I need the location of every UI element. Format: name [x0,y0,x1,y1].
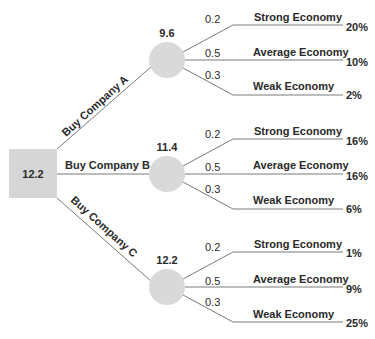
prob-a-average: 0.5 [205,47,220,59]
line-option-c [57,198,152,282]
outcome-a-weak: Weak Economy [253,80,335,92]
outcome-a-strong: Strong Economy [254,11,343,23]
option-a-label: Buy Company A [59,73,130,139]
payoff-a-average: 10% [346,56,368,68]
outcome-b-weak: Weak Economy [253,194,335,206]
payoff-c-average: 9% [346,283,362,295]
chance-node-c-value: 12.2 [156,254,177,266]
chance-node-c [149,269,185,305]
chance-node-a-value: 9.6 [159,27,174,39]
line-option-a [57,66,152,149]
option-c-label: Buy Company C [69,194,140,260]
chance-node-b-value: 11.4 [157,141,179,153]
payoff-c-weak: 25% [346,317,368,329]
option-b-label: Buy Company B [65,159,150,171]
prob-a-strong: 0.2 [205,13,220,25]
prob-b-weak: 0.3 [205,183,220,195]
decision-node-value: 12.2 [22,168,43,180]
outcome-c-strong: Strong Economy [254,238,343,250]
outcome-c-weak: Weak Economy [253,308,335,320]
chance-node-b [149,156,185,192]
payoff-c-strong: 1% [346,247,362,259]
outcome-a-average: Average Economy [253,46,349,58]
outcome-c-average: Average Economy [253,273,349,285]
payoff-a-strong: 20% [346,21,368,33]
prob-c-strong: 0.2 [205,241,220,253]
payoff-b-average: 16% [346,170,368,182]
outcome-b-strong: Strong Economy [254,125,343,137]
prob-a-weak: 0.3 [205,69,220,81]
decision-tree: 12.2 9.6 11.4 12.2 Buy Company A Buy Com… [0,0,375,339]
payoff-b-weak: 6% [346,203,362,215]
chance-node-a [149,42,185,78]
prob-b-average: 0.5 [205,161,220,173]
prob-c-average: 0.5 [205,275,220,287]
payoff-b-strong: 16% [346,135,368,147]
prob-b-strong: 0.2 [205,128,220,140]
prob-c-weak: 0.3 [205,296,220,308]
payoff-a-weak: 2% [346,89,362,101]
outcome-b-average: Average Economy [253,159,349,171]
